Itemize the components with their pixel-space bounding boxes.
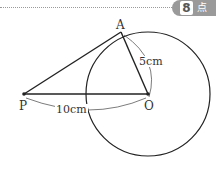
label-o: O bbox=[144, 100, 154, 112]
geometry-figure bbox=[0, 0, 219, 170]
label-p: P bbox=[19, 100, 27, 112]
label-a: A bbox=[116, 19, 125, 31]
measure-ao: 5cm bbox=[138, 56, 164, 67]
segment-pa bbox=[24, 32, 121, 94]
point-o bbox=[146, 92, 150, 96]
point-p bbox=[22, 92, 26, 96]
measure-po: 10cm bbox=[55, 104, 88, 115]
